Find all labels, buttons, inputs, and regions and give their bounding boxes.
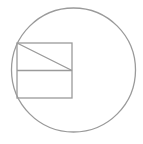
diagonal-line (17, 43, 72, 71)
geometry-diagram (0, 0, 143, 144)
